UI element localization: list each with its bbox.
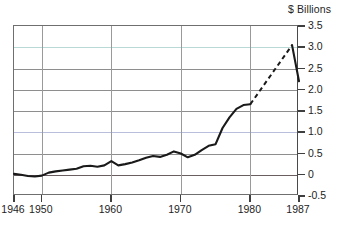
x-axis-tick-label: 1950 <box>29 203 52 215</box>
x-axis-tick <box>110 195 112 202</box>
x-axis-tick-label: 1980 <box>238 203 261 215</box>
y-axis-tick <box>298 174 305 176</box>
y-axis-tick <box>298 89 305 91</box>
y-axis-tick <box>298 25 305 27</box>
x-axis-tick-label: 1946 <box>1 203 24 215</box>
series-svg <box>14 26 299 196</box>
y-axis-tick <box>298 131 305 133</box>
x-axis-tick-label: 1960 <box>99 203 122 215</box>
x-axis-tick <box>180 195 182 202</box>
y-axis-tick <box>298 110 305 112</box>
x-axis-tick-label: 1987 <box>286 203 309 215</box>
y-axis-tick-label: 3.0 <box>308 40 323 52</box>
x-axis-tick <box>41 195 43 202</box>
line-actual <box>14 104 250 176</box>
y-axis-tick <box>298 46 305 48</box>
y-axis-tick <box>298 68 305 70</box>
y-axis-tick-label: 2.5 <box>308 62 323 74</box>
y-axis-tick-label: -0.5 <box>308 189 326 201</box>
y-axis-tick-label: 2.0 <box>308 83 323 95</box>
line-revision <box>292 45 299 81</box>
series-layer <box>14 26 297 194</box>
x-axis-tick <box>13 195 15 202</box>
x-axis-tick-label: 1970 <box>168 203 191 215</box>
y-axis-unit-caption: $ Billions <box>288 3 331 15</box>
y-axis-tick-label: 1.0 <box>308 125 323 137</box>
x-axis-tick <box>298 195 300 202</box>
plot-area <box>13 25 298 195</box>
y-axis-tick-label: 3.5 <box>308 19 323 31</box>
line-projection <box>250 45 292 104</box>
chart-root: $ Billions 3.53.02.52.01.51.00.50-0.5 19… <box>0 0 339 233</box>
y-axis-tick <box>298 153 305 155</box>
x-axis-tick <box>249 195 251 202</box>
y-axis-tick-label: 0 <box>308 168 314 180</box>
y-axis-tick-label: 0.5 <box>308 147 323 159</box>
y-axis-tick-label: 1.5 <box>308 104 323 116</box>
